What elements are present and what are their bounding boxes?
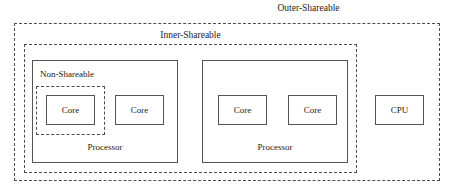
non-shareable-label: Non-Shareable bbox=[40, 70, 94, 79]
core-label: Core bbox=[47, 106, 94, 115]
processor-two-label: Processor bbox=[202, 143, 348, 152]
core-box: Core bbox=[115, 95, 164, 125]
core-box: Core bbox=[218, 95, 267, 125]
inner-shareable-label: Inner-Shareable bbox=[24, 31, 357, 41]
shareability-domains-diagram: Outer-Shareable Inner-Shareable Processo… bbox=[0, 0, 453, 193]
processor-one-label: Processor bbox=[32, 143, 178, 152]
core-box: Core bbox=[46, 95, 95, 125]
core-label: Core bbox=[116, 106, 163, 115]
cpu-label: CPU bbox=[376, 106, 423, 115]
outer-shareable-label: Outer-Shareable bbox=[0, 4, 453, 14]
core-box: Core bbox=[288, 95, 337, 125]
core-label: Core bbox=[289, 106, 336, 115]
cpu-box: CPU bbox=[375, 95, 424, 125]
core-label: Core bbox=[219, 106, 266, 115]
